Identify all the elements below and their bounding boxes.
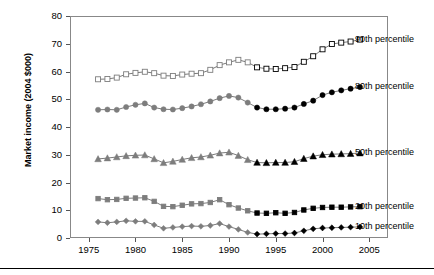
- data-point: [329, 225, 335, 231]
- y-tick-label: 30: [28, 149, 62, 160]
- data-point: [227, 60, 232, 65]
- data-point: [310, 226, 316, 232]
- data-point: [142, 69, 147, 74]
- y-tick-label: 0: [28, 232, 62, 243]
- data-point: [124, 104, 129, 109]
- data-point: [320, 47, 325, 52]
- data-point: [152, 199, 156, 203]
- data-point: [152, 71, 157, 76]
- data-point: [329, 42, 334, 47]
- data-point: [320, 205, 324, 209]
- data-point: [142, 218, 148, 224]
- data-point: [161, 225, 167, 231]
- data-point: [217, 221, 223, 227]
- data-point: [348, 39, 353, 44]
- series-2: [95, 84, 362, 112]
- data-point: [151, 222, 157, 228]
- data-point: [96, 196, 100, 200]
- data-point: [292, 210, 296, 214]
- data-point: [301, 59, 306, 64]
- data-point: [255, 65, 260, 70]
- data-point: [283, 106, 288, 111]
- series-1: [96, 37, 363, 82]
- footer-rule: [0, 268, 434, 269]
- data-point: [105, 220, 111, 226]
- data-point: [170, 107, 175, 112]
- data-point: [226, 93, 231, 98]
- data-point: [292, 65, 297, 70]
- series-3: [95, 149, 363, 166]
- data-point: [189, 104, 194, 109]
- data-point: [189, 223, 195, 229]
- x-tick-label: 1990: [209, 244, 249, 255]
- data-point: [236, 206, 240, 210]
- y-tick-label: 20: [28, 177, 62, 188]
- data-point: [133, 218, 139, 224]
- data-point: [282, 231, 288, 237]
- data-point: [170, 225, 176, 231]
- data-point: [320, 225, 326, 231]
- data-point: [207, 223, 213, 229]
- data-point: [198, 223, 204, 229]
- x-tick-label: 1995: [256, 244, 296, 255]
- data-point: [170, 73, 175, 78]
- data-point: [180, 106, 185, 111]
- data-point: [311, 206, 315, 210]
- data-point: [105, 107, 110, 112]
- data-point: [348, 224, 354, 230]
- y-tick-mark: [66, 238, 70, 239]
- data-point: [114, 219, 120, 225]
- data-point: [320, 92, 325, 97]
- data-point: [226, 224, 232, 230]
- data-point: [123, 218, 129, 224]
- data-point: [311, 54, 316, 59]
- data-point: [161, 73, 166, 78]
- data-point: [338, 225, 344, 231]
- data-point: [161, 204, 165, 208]
- series-layer: [70, 16, 388, 238]
- data-point: [348, 86, 353, 91]
- x-tick-mark: [369, 238, 370, 242]
- data-point: [273, 107, 278, 112]
- x-tick-label: 2000: [303, 244, 343, 255]
- data-point: [236, 57, 241, 62]
- data-point: [311, 98, 316, 103]
- y-tick-label: 80: [28, 10, 62, 21]
- y-tick-label: 10: [28, 204, 62, 215]
- data-point: [198, 71, 203, 76]
- data-point: [254, 105, 259, 110]
- x-tick-label: 1975: [69, 244, 109, 255]
- data-point: [292, 105, 297, 110]
- x-tick-mark: [323, 238, 324, 242]
- data-point: [95, 219, 101, 225]
- data-point: [274, 211, 278, 215]
- data-point: [133, 70, 138, 75]
- data-point: [180, 72, 185, 77]
- legend-item-10th: 10th percentile: [355, 221, 414, 231]
- y-axis-title: Market income (2004 $000): [23, 30, 33, 190]
- data-point: [208, 99, 213, 104]
- data-point: [292, 230, 298, 236]
- data-point: [339, 205, 343, 209]
- data-point: [198, 102, 203, 107]
- data-point: [339, 88, 344, 93]
- data-point: [152, 105, 157, 110]
- data-point: [105, 198, 109, 202]
- data-point: [96, 77, 101, 82]
- x-tick-mark: [182, 238, 183, 242]
- data-point: [217, 198, 221, 202]
- data-point: [329, 90, 334, 95]
- x-tick-mark: [276, 238, 277, 242]
- plot-area: [70, 16, 388, 238]
- data-point: [273, 231, 279, 237]
- data-point: [236, 95, 241, 100]
- data-point: [133, 196, 137, 200]
- data-point: [143, 196, 147, 200]
- data-point: [124, 196, 128, 200]
- y-tick-label: 70: [28, 38, 62, 49]
- data-point: [124, 72, 129, 77]
- data-point: [189, 202, 193, 206]
- series-4: [96, 196, 362, 216]
- y-tick-label: 40: [28, 121, 62, 132]
- data-point: [330, 205, 334, 209]
